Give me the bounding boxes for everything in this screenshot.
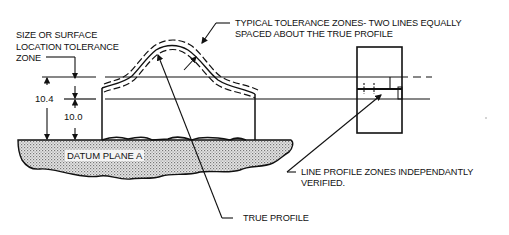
typical-zone-label-1: TYPICAL TOLERANCE ZONES- TWO LINES EQUAL… xyxy=(235,18,462,29)
size-zone-label-2: LOCATION TOLERANCE xyxy=(16,42,119,53)
size-zone-label-1: SIZE OR SURFACE xyxy=(16,30,97,41)
typical-zone-label-2: SPACED ABOUT THE TRUE PROFILE xyxy=(235,29,393,40)
dimension-lower-value: 10.0 xyxy=(63,111,84,122)
datum-plane xyxy=(18,140,293,179)
size-zone-label-3: ZONE xyxy=(16,53,41,64)
datum-plane-label: DATUM PLANE A xyxy=(65,150,144,161)
part-outline xyxy=(102,40,258,140)
side-view-box xyxy=(357,47,402,133)
independent-label-1: LINE PROFILE ZONES INDEPENDANTLY xyxy=(301,167,473,178)
independent-label-2: VERIFIED. xyxy=(301,178,345,189)
true-profile-label: TRUE PROFILE xyxy=(243,213,309,224)
true-profile-leader xyxy=(158,55,233,218)
typical-zone-leader xyxy=(184,23,230,70)
tolerance-diagram: SIZE OR SURFACE LOCATION TOLERANCE ZONE … xyxy=(0,0,509,235)
dimension-upper-value: 10.4 xyxy=(34,93,55,104)
